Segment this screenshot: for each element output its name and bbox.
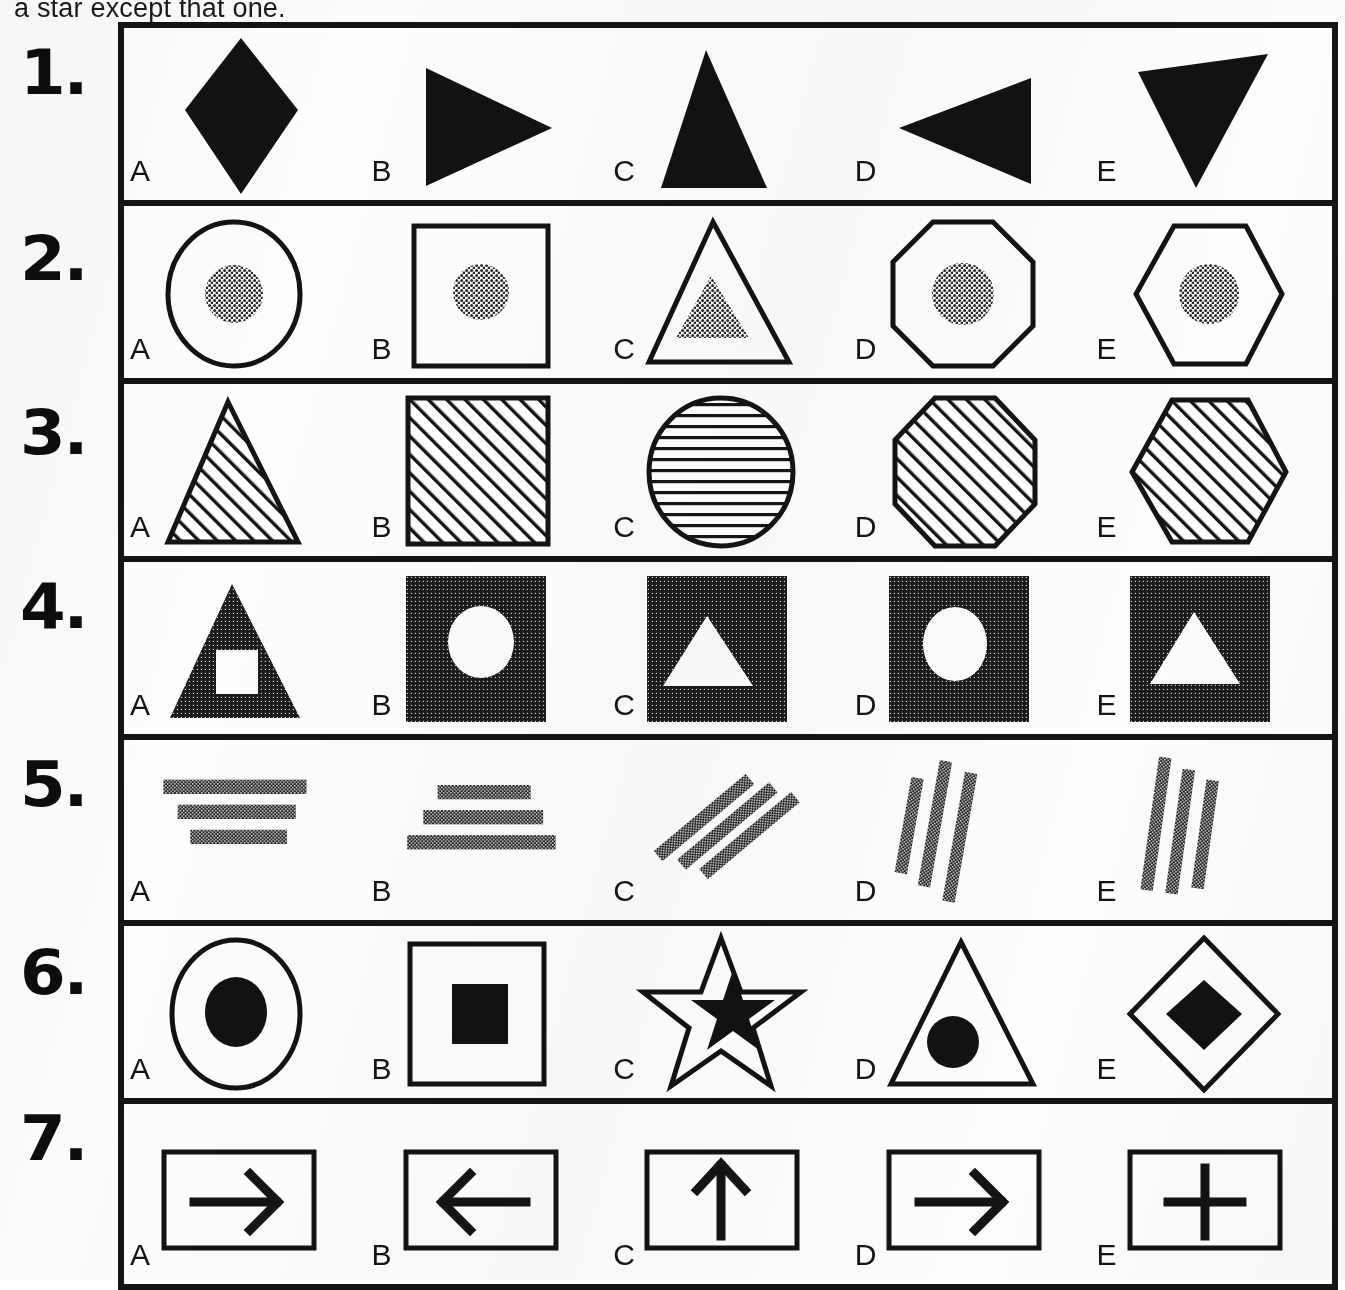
- instruction-text: a star except that one.: [14, 0, 286, 24]
- option-letter: D: [855, 1238, 877, 1272]
- option-letter: D: [855, 510, 877, 544]
- question-number-3: 3.: [20, 402, 122, 464]
- option-letter: C: [613, 154, 635, 188]
- option-letter: D: [855, 332, 877, 366]
- option-4-D[interactable]: D: [849, 562, 1091, 734]
- option-3-E[interactable]: E: [1090, 384, 1332, 556]
- option-3-B[interactable]: B: [366, 384, 608, 556]
- question-row-5: 5. A B: [124, 740, 1332, 926]
- option-1-A[interactable]: A: [124, 28, 366, 200]
- option-3-D[interactable]: D: [849, 384, 1091, 556]
- option-6-B[interactable]: B: [366, 926, 608, 1098]
- option-1-D[interactable]: D: [849, 28, 1091, 200]
- option-letter: A: [130, 688, 150, 722]
- question-number-7: 7.: [20, 1108, 122, 1170]
- figure-outline-circle-with-black-circle: [158, 934, 328, 1094]
- option-letter: B: [372, 154, 392, 188]
- figure-three-steep-bars-leaning-left: [1124, 756, 1294, 916]
- figure-three-steep-bars-leaning-left: [883, 756, 1053, 916]
- figure-boxed-arrow-up: [641, 1110, 811, 1270]
- option-4-C[interactable]: C: [607, 562, 849, 734]
- option-1-E[interactable]: E: [1090, 28, 1332, 200]
- option-5-A[interactable]: A: [124, 740, 366, 920]
- figure-dark-triangle-with-white-square: [158, 570, 328, 730]
- figure-three-horizontal-bars-widening-down: [400, 756, 570, 916]
- question-row-2: 2. A B: [124, 206, 1332, 384]
- option-letter: A: [130, 1238, 150, 1272]
- figure-filled-triangle-down: [1124, 36, 1294, 196]
- option-letter: C: [613, 510, 635, 544]
- question-row-3: 3. A B: [124, 384, 1332, 562]
- figure-outline-diamond-with-black-diamond: [1124, 934, 1294, 1094]
- question-number-5: 5.: [20, 754, 122, 816]
- figure-boxed-arrow-right: [158, 1110, 328, 1270]
- option-6-C[interactable]: C: [607, 926, 849, 1098]
- option-3-C[interactable]: C: [607, 384, 849, 556]
- figure-outline-square-with-gray-circle: [400, 214, 570, 374]
- option-letter: A: [130, 1052, 150, 1086]
- figure-hatched-square-diagonal: [400, 392, 570, 552]
- figure-filled-triangle-up: [641, 36, 811, 196]
- option-7-C[interactable]: C: [607, 1104, 849, 1284]
- option-letter: D: [855, 1052, 877, 1086]
- option-letter: A: [130, 154, 150, 188]
- figure-boxed-arrow-left: [400, 1110, 570, 1270]
- option-3-A[interactable]: A: [124, 384, 366, 556]
- option-letter: E: [1096, 1052, 1116, 1086]
- option-6-D[interactable]: D: [849, 926, 1091, 1098]
- option-letter: A: [130, 510, 150, 544]
- option-letter: C: [613, 1052, 635, 1086]
- option-2-B[interactable]: B: [366, 206, 608, 378]
- figure-filled-triangle-right: [400, 36, 570, 196]
- option-letter: E: [1096, 154, 1116, 188]
- option-2-E[interactable]: E: [1090, 206, 1332, 378]
- question-number-1: 1.: [20, 42, 122, 104]
- option-letter: C: [613, 874, 635, 908]
- option-6-E[interactable]: E: [1090, 926, 1332, 1098]
- option-letter: A: [130, 874, 150, 908]
- option-1-C[interactable]: C: [607, 28, 849, 200]
- figure-outline-star-with-black-star: [641, 934, 811, 1094]
- option-5-C[interactable]: C: [607, 740, 849, 920]
- option-2-C[interactable]: C: [607, 206, 849, 378]
- question-number-2: 2.: [20, 228, 122, 290]
- option-5-B[interactable]: B: [366, 740, 608, 920]
- option-letter: A: [130, 332, 150, 366]
- option-letter: D: [855, 874, 877, 908]
- question-number-4: 4.: [20, 576, 122, 638]
- figure-hatched-hexagon-diagonal: [1124, 392, 1294, 552]
- figure-boxed-plus: [1124, 1110, 1294, 1270]
- figure-dark-square-with-white-triangle: [1124, 570, 1294, 730]
- figure-outline-triangle-with-black-circle: [883, 934, 1053, 1094]
- option-4-B[interactable]: B: [366, 562, 608, 734]
- figure-hatched-octagon-diagonal: [883, 392, 1053, 552]
- option-4-E[interactable]: E: [1090, 562, 1332, 734]
- option-7-E[interactable]: E: [1090, 1104, 1332, 1284]
- figure-boxed-arrow-right: [883, 1110, 1053, 1270]
- option-4-A[interactable]: A: [124, 562, 366, 734]
- option-5-D[interactable]: D: [849, 740, 1091, 920]
- option-letter: E: [1096, 510, 1116, 544]
- question-row-7: 7. A B: [124, 1104, 1332, 1290]
- figure-hatched-circle-horizontal: [641, 392, 811, 552]
- option-letter: D: [855, 154, 877, 188]
- option-6-A[interactable]: A: [124, 926, 366, 1098]
- figure-filled-diamond: [158, 36, 328, 196]
- option-7-B[interactable]: B: [366, 1104, 608, 1284]
- question-number-6: 6.: [20, 942, 122, 1004]
- question-row-1: 1. A B C D: [124, 28, 1332, 206]
- option-2-A[interactable]: A: [124, 206, 366, 378]
- option-5-E[interactable]: E: [1090, 740, 1332, 920]
- option-2-D[interactable]: D: [849, 206, 1091, 378]
- option-letter: E: [1096, 332, 1116, 366]
- option-letter: B: [372, 332, 392, 366]
- option-1-B[interactable]: B: [366, 28, 608, 200]
- option-letter: D: [855, 688, 877, 722]
- figure-hatched-triangle-diagonal: [158, 392, 328, 552]
- option-7-A[interactable]: A: [124, 1104, 366, 1284]
- option-letter: C: [613, 332, 635, 366]
- figure-outline-octagon-with-gray-circle: [883, 214, 1053, 374]
- option-7-D[interactable]: D: [849, 1104, 1091, 1284]
- option-letter: B: [372, 1238, 392, 1272]
